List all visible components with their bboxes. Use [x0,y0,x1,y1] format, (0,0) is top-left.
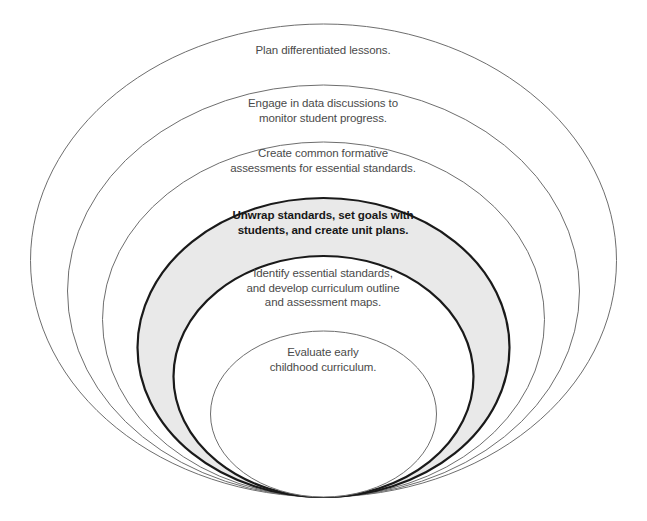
ring-label-plan-differentiated-lessons: Plan differentiated lessons. [173,43,473,58]
rings-svg [0,0,647,521]
ring-label-engage-in-data-discussions: Engage in data discussions to monitor st… [198,96,448,125]
ring-label-create-common-formative-assessments: Create common formative assessments for … [183,146,463,175]
nested-ellipses-diagram: Plan differentiated lessons. Engage in d… [0,0,647,521]
ring-label-identify-essential-standards: Identify essential standards, and develo… [213,266,433,310]
ring-label-evaluate-early-childhood-curriculum: Evaluate early childhood curriculum. [243,345,403,374]
ring-label-unwrap-standards: Unwrap standards, set goals with student… [203,208,443,238]
